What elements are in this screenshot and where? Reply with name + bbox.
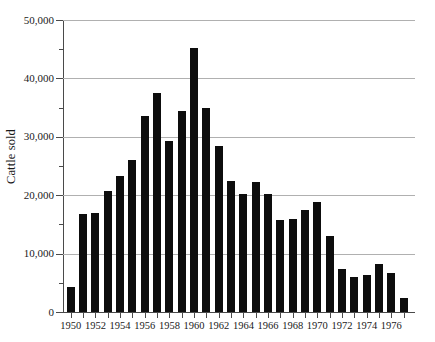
bar xyxy=(313,202,321,312)
x-axis-tick xyxy=(194,313,195,318)
x-axis-tick xyxy=(379,313,380,318)
bar xyxy=(375,264,383,312)
bar xyxy=(264,194,272,312)
x-axis-tick-label: 1956 xyxy=(134,320,155,331)
x-axis-tick xyxy=(404,313,405,318)
x-axis-tick xyxy=(219,313,220,318)
y-axis-tick-label: 20,000 xyxy=(0,190,54,201)
x-axis-tick-label: 1958 xyxy=(159,320,180,331)
gridline xyxy=(63,137,415,138)
x-axis-tick xyxy=(71,313,72,318)
x-axis-tick xyxy=(280,313,281,318)
bar xyxy=(67,287,75,312)
y-axis-tick-label: 10,000 xyxy=(0,248,54,259)
bar xyxy=(400,298,408,312)
x-axis-tick xyxy=(132,313,133,318)
gridline xyxy=(63,78,415,79)
bar xyxy=(215,146,223,312)
y-axis-tick-major xyxy=(56,312,64,313)
x-axis-tick-label: 1970 xyxy=(307,320,328,331)
x-axis-tick xyxy=(268,313,269,318)
bar xyxy=(165,141,173,312)
x-axis-tick-label: 1952 xyxy=(85,320,106,331)
bar xyxy=(363,275,371,312)
bar xyxy=(178,111,186,312)
bar xyxy=(387,273,395,312)
x-axis-tick xyxy=(256,313,257,318)
bar xyxy=(252,182,260,312)
x-axis-tick xyxy=(108,313,109,318)
cattle-sold-bar-chart: Cattle sold 010,00020,00030,00040,00050,… xyxy=(0,0,435,342)
x-axis-tick xyxy=(206,313,207,318)
x-axis-tick xyxy=(145,313,146,318)
x-axis-tick xyxy=(83,313,84,318)
y-axis-tick-label: 40,000 xyxy=(0,73,54,84)
x-axis-tick xyxy=(342,313,343,318)
bar xyxy=(289,219,297,312)
bar xyxy=(239,194,247,312)
x-axis-tick-label: 1954 xyxy=(110,320,131,331)
x-axis-tick-label: 1964 xyxy=(233,320,254,331)
x-axis-tick xyxy=(157,313,158,318)
bar xyxy=(91,213,99,312)
x-axis-tick xyxy=(231,313,232,318)
x-axis-tick-label: 1966 xyxy=(258,320,279,331)
bar xyxy=(301,210,309,312)
bar xyxy=(227,181,235,312)
x-axis-tick-label: 1976 xyxy=(381,320,402,331)
bar xyxy=(276,220,284,312)
x-axis-tick xyxy=(243,313,244,318)
bar xyxy=(141,116,149,312)
y-axis-tick-label: 30,000 xyxy=(0,131,54,142)
x-axis-tick xyxy=(367,313,368,318)
bar xyxy=(104,191,112,312)
bar xyxy=(202,108,210,312)
bar xyxy=(338,269,346,312)
x-axis-tick-label: 1962 xyxy=(208,320,229,331)
x-axis-tick xyxy=(330,313,331,318)
plot-area xyxy=(63,20,415,312)
x-axis-tick-label: 1974 xyxy=(356,320,377,331)
x-axis-tick xyxy=(317,313,318,318)
bar xyxy=(79,214,87,312)
x-axis-tick xyxy=(120,313,121,318)
bar xyxy=(326,236,334,312)
x-axis-line xyxy=(63,312,415,313)
y-axis-tick-label: 50,000 xyxy=(0,15,54,26)
x-axis-tick xyxy=(354,313,355,318)
x-axis-tick xyxy=(182,313,183,318)
gridline xyxy=(63,20,415,21)
bar xyxy=(190,48,198,312)
x-axis-tick xyxy=(293,313,294,318)
x-axis-tick-label: 1972 xyxy=(332,320,353,331)
x-axis-tick xyxy=(305,313,306,318)
x-axis-tick xyxy=(391,313,392,318)
x-axis-tick-label: 1960 xyxy=(184,320,205,331)
y-axis-tick-label: 0 xyxy=(0,307,54,318)
y-axis-title: Cattle sold xyxy=(2,0,20,312)
x-axis-tick xyxy=(95,313,96,318)
bar xyxy=(153,93,161,312)
x-axis-tick xyxy=(169,313,170,318)
x-axis-tick-label: 1950 xyxy=(60,320,81,331)
bar xyxy=(128,160,136,312)
x-axis-tick-label: 1968 xyxy=(282,320,303,331)
bar xyxy=(350,277,358,312)
bar xyxy=(116,176,124,312)
